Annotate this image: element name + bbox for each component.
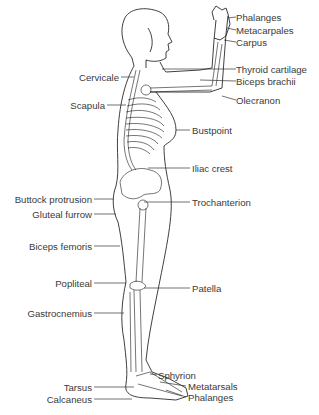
label-phalanges-hand: Phalanges [236,12,281,23]
skeleton [120,42,222,396]
label-iliac-crest: Iliac crest [192,163,233,174]
anatomy-figure [0,0,319,415]
label-metacarpales: Metacarpales [236,25,294,36]
label-thyroid-cartilage: Thyroid cartilage [236,64,307,75]
label-metatarsals: Metatarsals [188,381,238,392]
label-sphyrion: Sphyrion [158,370,196,381]
label-buttock-protrusion: Buttock protrusion [15,194,92,205]
label-olecranon: Olecranon [236,95,280,106]
label-biceps-femoris: Biceps femoris [29,241,92,252]
label-cervicale: Cervicale [79,72,119,83]
label-patella: Patella [192,283,221,294]
label-trochanterion: Trochanterion [192,197,251,208]
label-tarsus: Tarsus [64,382,92,393]
label-scapula: Scapula [70,100,105,111]
label-carpus: Carpus [236,37,267,48]
label-phalanges-foot: Phalanges [188,392,233,403]
label-gastrocnemius: Gastrocnemius [27,308,92,319]
label-biceps-brachii: Biceps brachii [236,76,296,87]
label-gluteal-furrow: Gluteal furrow [32,209,92,220]
label-popliteal: Popliteal [55,278,92,289]
label-bustpoint: Bustpoint [192,125,232,136]
label-calcaneus: Calcaneus [47,394,92,405]
